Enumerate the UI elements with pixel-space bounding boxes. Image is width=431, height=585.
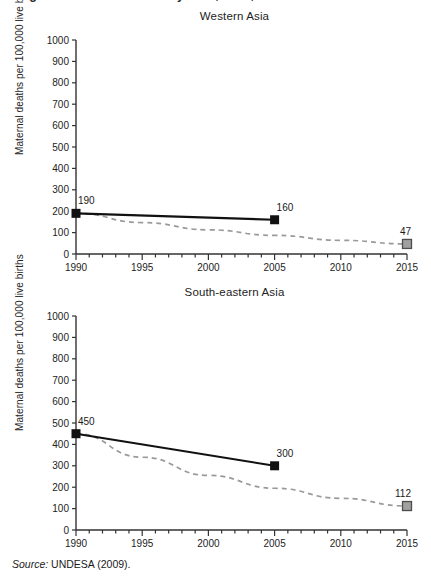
target-trajectory-line (76, 434, 407, 506)
source-label: Source: (12, 558, 48, 570)
target-marker (403, 239, 412, 248)
y-tick-label: 1000 (47, 35, 70, 46)
chart-south-eastern-asia: South-eastern Asia Maternal deaths per 1… (0, 286, 431, 548)
observed-marker (270, 215, 279, 224)
y-tick-label: 100 (52, 503, 69, 514)
y-tick-label: 300 (52, 460, 69, 471)
observed-marker (72, 209, 81, 218)
y-tick-label: 100 (52, 227, 69, 238)
y-tick-label: 600 (52, 120, 69, 131)
y-tick-label: 900 (52, 56, 69, 67)
y-tick-label: 300 (52, 184, 69, 195)
chart-western-asia: Western Asia Maternal deaths per 100,000… (0, 10, 431, 285)
plot-area: 1000900800700600500400300200100019901995… (0, 286, 431, 548)
y-tick-label: 500 (52, 418, 69, 429)
x-tick-label: 2005 (263, 262, 286, 273)
data-point-label: 112 (395, 488, 411, 499)
y-tick-label: 700 (52, 375, 69, 386)
observed-line (76, 434, 275, 466)
plot-area: 1000900800700600500400300200100019901995… (0, 10, 431, 285)
x-tick-label: 2000 (197, 262, 220, 273)
observed-marker (270, 461, 279, 470)
x-tick-label: 2015 (396, 262, 419, 273)
y-tick-label: 600 (52, 396, 69, 407)
data-point-label: 450 (78, 416, 95, 427)
data-point-label: 160 (277, 202, 294, 213)
x-tick-label: 1995 (131, 538, 154, 548)
data-point-label: 300 (277, 448, 294, 459)
observed-marker (72, 429, 81, 438)
source-value: UNDESA (2009). (51, 558, 130, 570)
y-tick-label: 700 (52, 99, 69, 110)
x-tick-label: 1990 (65, 538, 88, 548)
y-tick-label: 400 (52, 163, 69, 174)
x-tick-label: 2005 (263, 538, 286, 548)
y-tick-label: 500 (52, 142, 69, 153)
y-tick-label: 400 (52, 439, 69, 450)
x-tick-label: 2000 (197, 538, 220, 548)
y-tick-label: 200 (52, 206, 69, 217)
data-point-label: 190 (78, 195, 95, 206)
data-point-label: 47 (400, 226, 412, 237)
target-marker (403, 502, 412, 511)
y-tick-label: 0 (63, 525, 69, 536)
source-note: Source: UNDESA (2009). (12, 558, 130, 570)
figure-page: Figure 3. Maternal mortality ratio, 1990… (0, 0, 431, 585)
y-tick-label: 200 (52, 482, 69, 493)
x-tick-label: 2010 (330, 538, 353, 548)
y-tick-label: 800 (52, 77, 69, 88)
x-tick-label: 1990 (65, 262, 88, 273)
x-tick-label: 1995 (131, 262, 154, 273)
y-tick-label: 0 (63, 249, 69, 260)
figure-caption-cropped: Figure 3. Maternal mortality ratio, 1990… (18, 0, 318, 2)
y-tick-label: 900 (52, 332, 69, 343)
x-tick-label: 2015 (396, 538, 419, 548)
y-tick-label: 1000 (47, 311, 70, 322)
x-tick-label: 2010 (330, 262, 353, 273)
y-tick-label: 800 (52, 353, 69, 364)
